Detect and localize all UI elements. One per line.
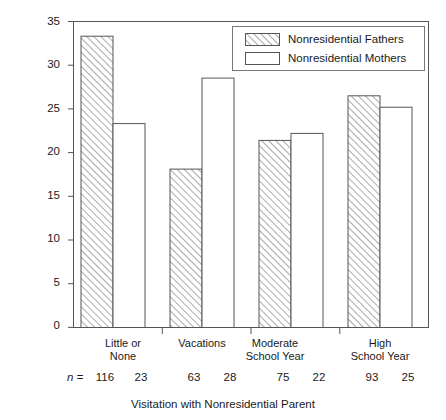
x-category-label-high-school-year-line1: High (330, 337, 430, 350)
bar-mothers-vacations (202, 78, 234, 327)
n-value-fathers-high-school-year: 93 (358, 371, 386, 383)
legend-swatch-fathers (246, 34, 280, 46)
bar-fathers-moderate-school-year (259, 140, 291, 327)
legend-label-fathers: Nonresidential Fathers (288, 33, 404, 45)
bar-fathers-vacations (170, 169, 202, 327)
x-axis-title: Visitation with Nonresidential Parent (0, 398, 446, 410)
bar-fathers-little-or-none (81, 36, 113, 327)
n-prefix-label: n = (67, 371, 83, 383)
bar-fathers-high-school-year (348, 96, 380, 328)
legend-label-mothers: Nonresidential Mothers (288, 52, 406, 64)
n-value-mothers-moderate-school-year: 22 (305, 371, 333, 383)
x-category-label-moderate-school-year-line1: Moderate (225, 337, 325, 350)
x-category-label-moderate-school-year-line2: School Year (225, 350, 325, 363)
x-axis-ticks (162, 328, 339, 335)
n-value-mothers-high-school-year: 25 (394, 371, 422, 383)
n-value-fathers-vacations: 63 (180, 371, 208, 383)
n-value-mothers-little-or-none: 23 (127, 371, 155, 383)
bar-mothers-little-or-none (113, 124, 145, 328)
x-category-label-little-or-none-line2: None (73, 350, 173, 363)
legend-swatch-mothers (246, 53, 280, 65)
bar-mothers-moderate-school-year (291, 133, 323, 327)
y-axis-ticks (68, 22, 74, 328)
x-category-label-high-school-year-line2: School Year (330, 350, 430, 363)
bar-chart-figure: Percent of Adolescents 35 30 25 20 15 10… (0, 0, 446, 420)
bar-mothers-high-school-year (380, 107, 412, 327)
n-value-fathers-moderate-school-year: 75 (269, 371, 297, 383)
n-value-fathers-little-or-none: 116 (91, 371, 119, 383)
n-value-mothers-vacations: 28 (216, 371, 244, 383)
